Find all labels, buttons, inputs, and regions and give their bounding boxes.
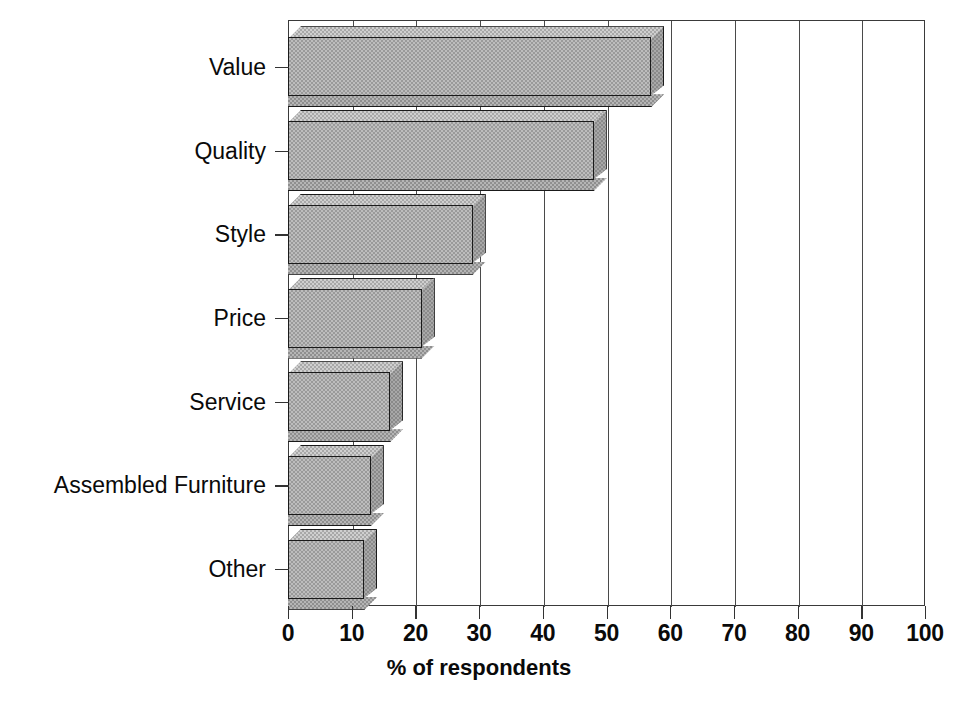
bar-front-face xyxy=(288,121,594,180)
category-label-other: Other xyxy=(208,556,266,583)
y-tick-2 xyxy=(275,234,289,235)
x-tick-0 xyxy=(288,606,289,619)
y-tick-5 xyxy=(275,485,289,486)
x-tick-80 xyxy=(798,606,799,619)
bar-quality[interactable] xyxy=(288,110,607,180)
gridline-60 xyxy=(671,21,672,607)
x-tick-30 xyxy=(479,606,480,619)
bar-front-face xyxy=(288,289,422,348)
x-tick-label-100: 100 xyxy=(906,620,943,647)
x-tick-label-80: 80 xyxy=(785,620,810,647)
category-label-quality: Quality xyxy=(194,137,266,164)
x-tick-label-50: 50 xyxy=(594,620,619,647)
x-tick-60 xyxy=(670,606,671,619)
gridline-50 xyxy=(608,21,609,607)
y-tick-0 xyxy=(275,67,289,68)
x-tick-20 xyxy=(415,606,416,619)
x-axis-title: % of respondents xyxy=(0,655,958,681)
x-tick-40 xyxy=(543,606,544,619)
bar-price[interactable] xyxy=(288,278,435,348)
x-tick-70 xyxy=(734,606,735,619)
bar-value[interactable] xyxy=(288,26,664,96)
bar-style[interactable] xyxy=(288,194,486,264)
x-tick-label-0: 0 xyxy=(282,620,295,647)
x-tick-100 xyxy=(925,606,926,619)
x-tick-label-10: 10 xyxy=(339,620,364,647)
y-tick-6 xyxy=(275,569,289,570)
x-tick-label-70: 70 xyxy=(721,620,746,647)
bar-service[interactable] xyxy=(288,361,403,431)
gridline-70 xyxy=(735,21,736,607)
category-label-assembled-furniture: Assembled Furniture xyxy=(54,472,266,499)
category-label-service: Service xyxy=(189,388,266,415)
bar-front-face xyxy=(288,372,390,431)
y-tick-4 xyxy=(275,402,289,403)
x-tick-50 xyxy=(607,606,608,619)
gridline-40 xyxy=(544,21,545,607)
bar-chart: ValueQualityStylePriceServiceAssembled F… xyxy=(0,0,958,702)
bar-front-face xyxy=(288,37,651,96)
y-tick-3 xyxy=(275,318,289,319)
bar-assembled-furniture[interactable] xyxy=(288,445,384,515)
x-tick-10 xyxy=(352,606,353,619)
category-label-value: Value xyxy=(209,53,266,80)
x-tick-label-90: 90 xyxy=(849,620,874,647)
x-tick-label-60: 60 xyxy=(658,620,683,647)
x-tick-label-30: 30 xyxy=(467,620,492,647)
y-tick-1 xyxy=(275,151,289,152)
bar-front-face xyxy=(288,540,364,599)
category-label-style: Style xyxy=(215,221,266,248)
gridline-30 xyxy=(480,21,481,607)
bar-front-face xyxy=(288,456,371,515)
bar-other[interactable] xyxy=(288,529,377,599)
bar-front-face xyxy=(288,205,473,264)
x-tick-label-20: 20 xyxy=(403,620,428,647)
gridline-90 xyxy=(862,21,863,607)
category-label-price: Price xyxy=(214,305,266,332)
x-tick-label-40: 40 xyxy=(530,620,555,647)
gridline-80 xyxy=(799,21,800,607)
x-tick-90 xyxy=(861,606,862,619)
